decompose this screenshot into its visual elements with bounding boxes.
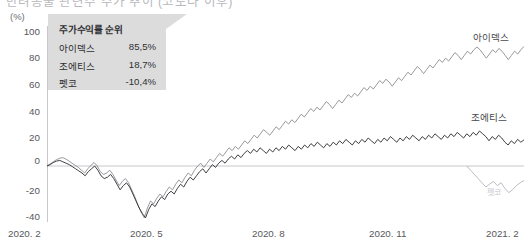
callout-value-idexx: 85,5% <box>129 41 156 52</box>
callout-row-idexx: 아이덱스 85,5% <box>59 41 159 56</box>
callout-value-zoetis: 18,7% <box>129 59 156 70</box>
callout-tail <box>166 14 187 29</box>
series-line-zoetis <box>47 131 524 218</box>
callout-name-petco: 펫코 <box>59 76 77 90</box>
callout-row-petco: 펫코 -10,4% <box>59 76 159 91</box>
x-tick-1: 2020. 5 <box>130 228 163 239</box>
cut-off-headline-text: 반려동물 관련주 주가 추이 (코로나 이후) <box>6 0 233 9</box>
chart-root: 반려동물 관련주 주가 추이 (코로나 이후) (%) 100 80 60 40… <box>0 0 528 247</box>
series-label-idexx: 아이덱스 <box>473 30 509 44</box>
y-tick-0: 0 <box>10 156 40 166</box>
ranking-callout: 주가수익률 순위 아이덱스 85,5% 조에티스 18,7% 펫코 -10,4% <box>48 14 166 90</box>
y-tick-neg20: -20 <box>10 186 40 196</box>
callout-name-zoetis: 조에티스 <box>59 59 95 73</box>
x-axis-tick-labels: 2020. 2 2020. 5 2020. 8 2020. 11 2021. 2 <box>0 228 528 242</box>
x-tick-2: 2020. 8 <box>252 228 285 239</box>
callout-title: 주가수익률 순위 <box>59 22 123 36</box>
y-tick-20: 20 <box>10 133 40 143</box>
x-tick-4: 2021. 2 <box>486 228 519 239</box>
callout-name-idexx: 아이덱스 <box>59 41 95 55</box>
x-tick-0: 2020. 2 <box>8 228 41 239</box>
y-tick-80: 80 <box>10 53 40 63</box>
series-label-zoetis: 조에티스 <box>471 110 507 124</box>
y-axis-tick-labels: 100 80 60 40 20 0 -20 -40 <box>6 0 40 247</box>
y-tick-40: 40 <box>10 107 40 117</box>
cut-off-headline: 반려동물 관련주 주가 추이 (코로나 이후) <box>0 0 528 9</box>
y-tick-neg40: -40 <box>10 212 40 222</box>
series-label-petco: 펫코 <box>487 186 501 197</box>
callout-row-zoetis: 조에티스 18,7% <box>59 59 159 74</box>
y-tick-60: 60 <box>10 80 40 90</box>
x-tick-3: 2020. 11 <box>369 228 406 239</box>
callout-value-petco: -10,4% <box>126 76 156 87</box>
y-tick-100: 100 <box>10 27 40 37</box>
